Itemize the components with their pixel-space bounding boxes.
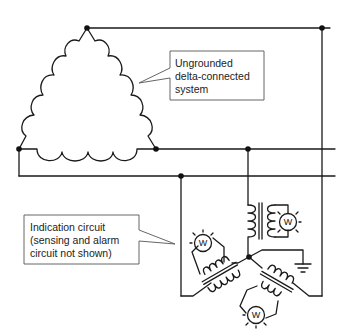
transformer-top: W: [248, 203, 311, 272]
callout-line-2: delta-connected: [175, 70, 250, 82]
transformer-to-neutral: [232, 257, 249, 263]
wattmeter-left: W: [190, 230, 213, 252]
transformer-left: W: [181, 230, 249, 296]
wattmeter-bottom: W: [243, 307, 266, 329]
callout-line-3: system: [175, 83, 209, 95]
wattmeter-right: W: [278, 212, 301, 232]
meter-label: W: [199, 238, 208, 248]
meter-label: W: [284, 217, 293, 227]
delta-system-diagram: W W: [0, 0, 347, 336]
callout-line-3: circuit not shown): [30, 247, 112, 259]
phase-a-return: [293, 283, 322, 296]
callout-line-2: (sensing and alarm: [30, 234, 120, 246]
meter-lead: [240, 286, 257, 313]
delta-coil-bottom: [19, 149, 156, 161]
junction-dot: [16, 146, 22, 152]
callout-system: Ungrounded delta-connected system: [139, 51, 264, 100]
callout-line-1: Indication circuit: [30, 221, 105, 233]
transformer-to-neutral: [249, 257, 262, 268]
transformer-core: [262, 271, 293, 289]
junction-dot: [84, 25, 90, 31]
ground-lead: [249, 250, 303, 264]
delta-coil-left: [19, 28, 87, 149]
meter-lead: [275, 205, 288, 213]
meter-lead: [275, 230, 288, 237]
delta-winding-source: [19, 28, 156, 161]
phase-c-return: [181, 283, 211, 296]
callout-indication: Indication circuit (sensing and alarm ci…: [24, 215, 175, 264]
transformer-core: [202, 262, 236, 282]
meter-label: W: [252, 310, 261, 320]
transformer-bottom: W: [240, 257, 322, 328]
delta-coil-right: [87, 28, 156, 149]
transformer-primary-coil: [248, 205, 256, 257]
transformer-primary-coil: [208, 270, 241, 293]
junction-dot: [245, 146, 251, 152]
junction-dot: [153, 146, 159, 152]
junction-dot: [178, 173, 184, 179]
meter-lead: [266, 301, 278, 318]
junction-dot: [319, 25, 325, 31]
transformer-secondary-coil: [268, 205, 276, 237]
callout-line-1: Ungrounded: [175, 57, 233, 69]
ground-icon: [295, 264, 311, 272]
